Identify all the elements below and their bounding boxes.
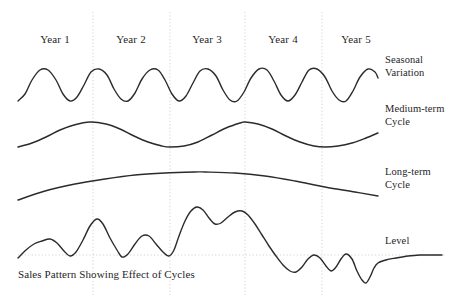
sales-pattern-figure: Year 1Year 2Year 3Year 4Year 5 SeasonalV… (0, 0, 456, 307)
year-label-1: Year 1 (25, 33, 85, 45)
series-curves (18, 68, 442, 283)
series-label-long-term-cycle: Long-termCycle (385, 166, 431, 191)
series-label-line-1: Medium-term (385, 103, 444, 116)
curve-long-term-cycle (18, 172, 378, 200)
series-label-line-2: Variation (385, 67, 424, 80)
year-label-4: Year 4 (253, 33, 313, 45)
year-label-5: Year 5 (326, 33, 386, 45)
curve-seasonal-variation (18, 68, 378, 102)
year-label-3: Year 3 (177, 33, 237, 45)
series-label-line-1: Seasonal (385, 54, 424, 67)
series-label-line-2: Cycle (385, 179, 431, 192)
vertical-gridlines (93, 12, 322, 295)
series-label-level: Level (385, 235, 409, 248)
chart-canvas (0, 0, 456, 307)
series-label-line-1: Level (385, 235, 409, 248)
series-label-medium-term-cycle: Medium-termCycle (385, 103, 444, 128)
series-label-line-2: Cycle (385, 116, 444, 129)
series-label-seasonal-variation: SeasonalVariation (385, 54, 424, 79)
series-label-line-1: Long-term (385, 166, 431, 179)
figure-caption: Sales Pattern Showing Effect of Cycles (18, 268, 195, 280)
year-label-2: Year 2 (101, 33, 161, 45)
curve-medium-term-cycle (18, 122, 378, 147)
